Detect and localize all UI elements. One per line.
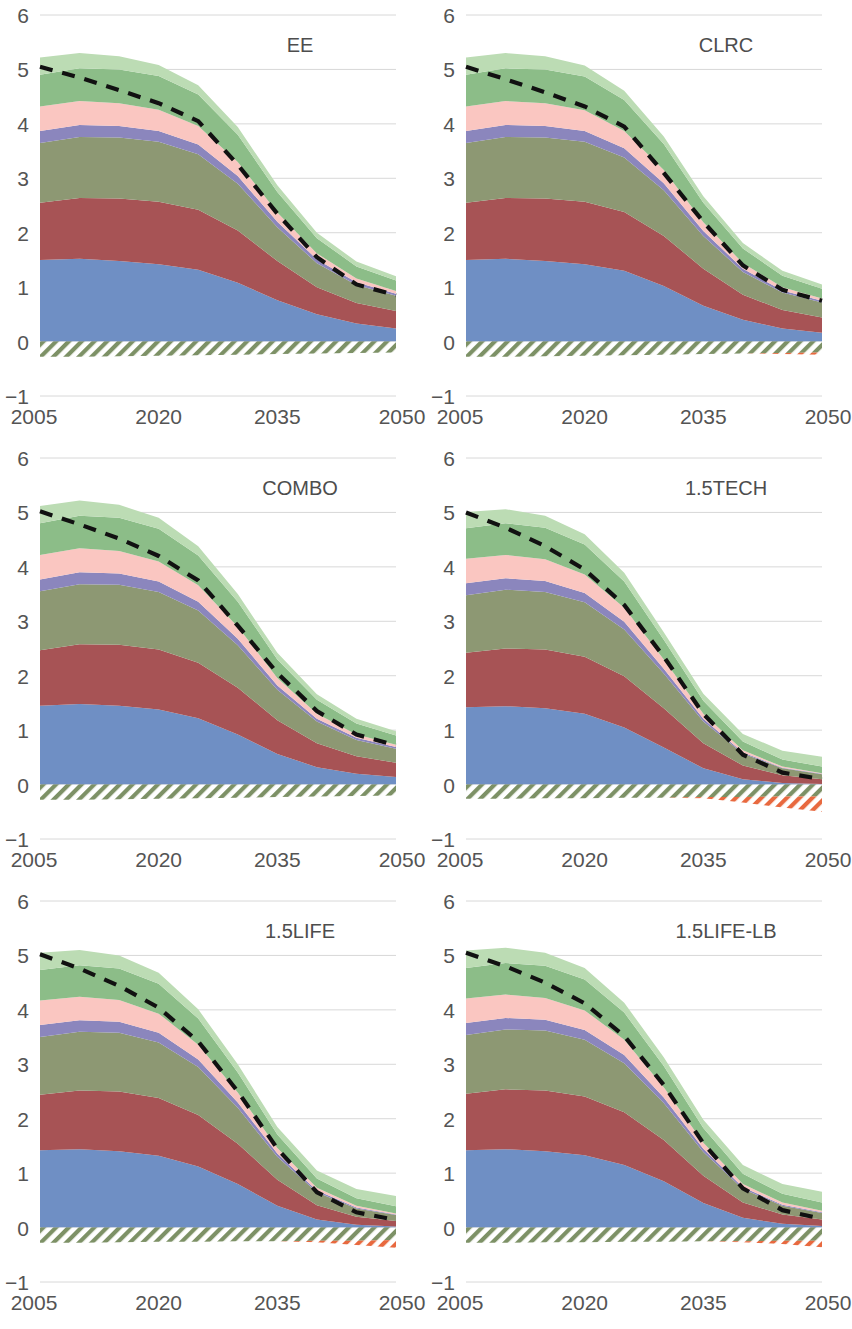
y-tick-label: 3 [17,167,29,190]
y-axis-ticks: 6543210−1 [5,447,29,851]
x-axis-ticks: 2005202020352050 [11,405,426,428]
x-tick-label: 2050 [805,848,852,871]
y-tick-label: 6 [17,890,29,913]
panel-title: 1.5TECH [685,477,767,499]
y-tick-label: 1 [17,276,29,299]
figure-root: 6543210−12005202020352050EE6543210−12005… [0,0,852,1329]
x-tick-label: 2005 [437,405,484,428]
y-tick-label: 3 [443,610,455,633]
y-tick-label: 1 [17,719,29,742]
x-tick-label: 2020 [135,1291,182,1314]
x-tick-label: 2035 [680,1291,727,1314]
y-tick-label: 2 [17,665,29,688]
area-hatch_orange [466,797,822,812]
y-tick-label: 4 [443,999,455,1022]
y-axis-ticks: 6543210−1 [431,4,455,408]
area-hatch_green [466,342,822,357]
area-hatch_green [40,785,396,800]
y-tick-label: 2 [17,222,29,245]
panel-1-5life: 6543210−120052020203520501.5LIFE [0,886,426,1329]
x-tick-label: 2020 [135,405,182,428]
y-tick-label: 2 [17,1108,29,1131]
area-hatch_green [466,1228,822,1243]
area-hatch_green [40,342,396,357]
y-axis-ticks: 6543210−1 [431,890,455,1294]
panel-clrc: 6543210−12005202020352050CLRC [426,0,852,443]
y-tick-label: 3 [443,167,455,190]
y-tick-label: 6 [443,890,455,913]
negative-areas [40,785,396,800]
y-tick-label: 5 [443,58,455,81]
negative-areas [466,342,822,357]
y-axis-ticks: 6543210−1 [5,4,29,408]
x-tick-label: 2050 [805,405,852,428]
panel-title: 1.5LIFE [265,920,335,942]
x-tick-label: 2035 [254,848,301,871]
y-axis-ticks: 6543210−1 [5,890,29,1294]
x-tick-label: 2050 [379,848,426,871]
negative-areas [466,785,822,812]
y-tick-label: 3 [17,1053,29,1076]
x-tick-label: 2035 [254,1291,301,1314]
x-tick-label: 2005 [11,405,58,428]
y-tick-label: 5 [443,944,455,967]
x-tick-label: 2005 [437,1291,484,1314]
y-tick-label: 0 [443,1217,455,1240]
stacked-areas [40,950,396,1228]
x-tick-label: 2020 [561,848,608,871]
x-tick-label: 2020 [135,848,182,871]
y-tick-label: 1 [443,1162,455,1185]
panel-ee: 6543210−12005202020352050EE [0,0,426,443]
y-tick-label: 4 [443,556,455,579]
y-tick-label: 4 [17,999,29,1022]
y-tick-label: 0 [17,331,29,354]
y-tick-label: 3 [17,610,29,633]
panel-title: CLRC [699,34,753,56]
stacked-areas [466,948,822,1228]
y-tick-label: 0 [17,1217,29,1240]
y-tick-label: 4 [443,113,455,136]
panel-1-5tech: 6543210−120052020203520501.5TECH [426,443,852,886]
y-tick-label: 1 [17,1162,29,1185]
x-axis-ticks: 2005202020352050 [437,405,852,428]
y-tick-label: 2 [443,1108,455,1131]
x-tick-label: 2035 [680,405,727,428]
stacked-areas [466,509,822,784]
x-axis-ticks: 2005202020352050 [437,848,852,871]
x-tick-label: 2035 [254,405,301,428]
y-tick-label: 2 [443,222,455,245]
x-axis-ticks: 2005202020352050 [11,1291,426,1314]
stacked-areas [40,53,396,341]
panel-title: COMBO [262,477,338,499]
x-tick-label: 2050 [379,405,426,428]
stacked-areas [466,53,822,341]
x-tick-label: 2005 [11,848,58,871]
y-tick-label: 6 [17,4,29,27]
area-hatch_green [466,785,822,799]
y-tick-label: 6 [443,4,455,27]
x-tick-label: 2005 [437,848,484,871]
y-tick-label: 5 [17,501,29,524]
y-tick-label: 5 [443,501,455,524]
y-tick-label: 0 [17,774,29,797]
x-tick-label: 2005 [11,1291,58,1314]
y-axis-ticks: 6543210−1 [431,447,455,851]
x-tick-label: 2050 [805,1291,852,1314]
y-tick-label: 4 [17,556,29,579]
y-tick-label: 3 [443,1053,455,1076]
y-tick-label: 1 [443,719,455,742]
y-tick-label: 6 [17,447,29,470]
y-tick-label: 2 [443,665,455,688]
y-tick-label: 4 [17,113,29,136]
y-tick-label: 6 [443,447,455,470]
panel-title: 1.5LIFE-LB [675,920,776,942]
x-tick-label: 2020 [561,405,608,428]
area-hatch_green [40,1228,396,1243]
y-tick-label: 5 [17,944,29,967]
x-axis-ticks: 2005202020352050 [437,1291,852,1314]
negative-areas [466,1228,822,1248]
negative-areas [40,1228,396,1248]
y-tick-label: 0 [443,331,455,354]
x-axis-ticks: 2005202020352050 [11,848,426,871]
panel-1-5life-lb: 6543210−120052020203520501.5LIFE-LB [426,886,852,1329]
